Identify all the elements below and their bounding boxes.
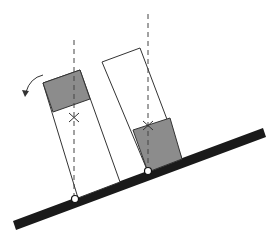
right-pivot-circle — [145, 168, 152, 175]
right-block — [102, 14, 182, 175]
left-pivot-circle — [72, 196, 79, 203]
rotation-arrow-icon — [26, 75, 43, 92]
rotation-arrowhead-icon — [22, 90, 29, 97]
incline-blocks-diagram — [0, 0, 278, 240]
